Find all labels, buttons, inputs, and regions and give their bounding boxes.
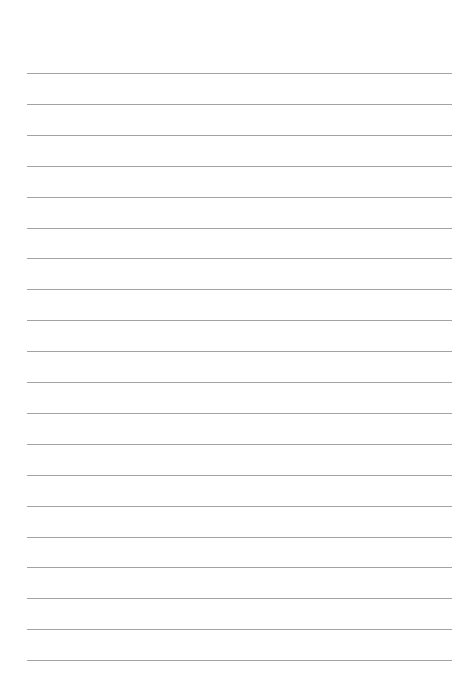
ruled-line xyxy=(27,537,452,538)
ruled-line xyxy=(27,629,452,630)
ruled-line xyxy=(27,228,452,229)
ruled-line xyxy=(27,351,452,352)
ruled-line xyxy=(27,197,452,198)
ruled-line xyxy=(27,135,452,136)
ruled-line xyxy=(27,506,452,507)
ruled-line xyxy=(27,166,452,167)
ruled-line xyxy=(27,289,452,290)
ruled-line xyxy=(27,104,452,105)
lined-paper-page xyxy=(0,0,472,696)
ruled-line xyxy=(27,444,452,445)
ruled-line xyxy=(27,258,452,259)
ruled-line xyxy=(27,382,452,383)
ruled-line xyxy=(27,660,452,661)
ruled-line xyxy=(27,73,452,74)
ruled-line xyxy=(27,475,452,476)
ruled-line xyxy=(27,598,452,599)
ruled-line xyxy=(27,567,452,568)
ruled-line xyxy=(27,320,452,321)
ruled-line xyxy=(27,413,452,414)
